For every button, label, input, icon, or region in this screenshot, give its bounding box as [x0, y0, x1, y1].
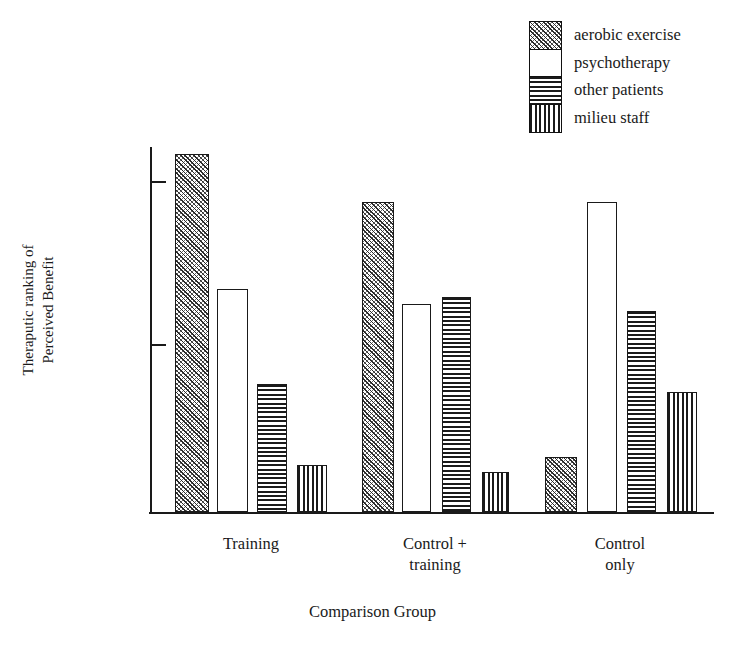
bar-control-training-aerobic-exercise — [362, 202, 394, 512]
bar-control-training-milieu-staff — [482, 472, 509, 512]
bar-control-only-milieu-staff — [667, 392, 697, 512]
y-axis-title: Theraputic ranking of Perceived Benefit — [18, 210, 58, 410]
bar-training-aerobic-exercise — [175, 154, 209, 512]
bar-training-other-patients — [257, 384, 287, 512]
y-axis-line — [150, 147, 152, 514]
x-axis-title: Comparison Group — [0, 602, 745, 622]
y-axis-tick-lower — [152, 344, 166, 346]
x-axis-line — [149, 512, 714, 514]
bar-training-milieu-staff — [297, 465, 327, 512]
bar-training-psychotherapy — [217, 289, 248, 512]
plot-area: Training Control + training Control only… — [0, 0, 745, 651]
y-axis-tick-upper — [152, 181, 166, 183]
x-axis-group-label-training: Training — [176, 533, 326, 554]
bar-control-only-other-patients — [627, 311, 656, 512]
bar-chart: aerobic exercise psychotherapy other pat… — [0, 0, 745, 651]
x-axis-group-label-control-training: Control + training — [360, 533, 510, 575]
bar-control-only-psychotherapy — [587, 202, 617, 512]
bar-control-training-psychotherapy — [402, 304, 431, 512]
x-axis-group-label-control-only: Control only — [545, 533, 695, 575]
bar-control-training-other-patients — [442, 297, 471, 512]
bar-control-only-aerobic-exercise — [545, 457, 577, 512]
